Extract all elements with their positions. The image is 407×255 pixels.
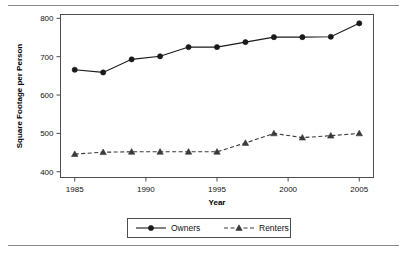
y-tick-label: 800 <box>40 14 54 23</box>
y-axis-title: Square Footage per Person <box>15 44 24 149</box>
y-tick-label: 400 <box>40 168 54 177</box>
x-tick-label: 2005 <box>350 185 368 194</box>
data-point-owners <box>328 34 333 39</box>
y-tick-label: 600 <box>40 91 54 100</box>
legend-label-renters: Renters <box>259 223 289 233</box>
x-axis-ticks: 19851990199520002005 <box>66 178 369 194</box>
data-point-owners <box>214 45 219 50</box>
x-tick-label: 1995 <box>208 185 226 194</box>
data-point-owners <box>101 70 106 75</box>
data-point-owners <box>357 21 362 26</box>
x-tick-label: 1990 <box>137 185 155 194</box>
chart-figure: 400500600700800 19851990199520002005 Squ… <box>0 0 407 255</box>
legend-label-owners: Owners <box>171 223 200 233</box>
data-point-owners <box>157 54 162 59</box>
data-point-owners <box>271 35 276 40</box>
data-point-owners <box>243 40 248 45</box>
y-tick-label: 700 <box>40 53 54 62</box>
data-point-owners <box>129 57 134 62</box>
data-point-owners <box>186 45 191 50</box>
data-point-owners <box>300 35 305 40</box>
line-chart: 400500600700800 19851990199520002005 Squ… <box>0 0 407 255</box>
legend-marker-owners <box>148 225 153 230</box>
x-axis-title: Year <box>209 198 226 207</box>
x-tick-label: 2000 <box>279 185 297 194</box>
data-point-owners <box>72 67 77 72</box>
y-tick-label: 500 <box>40 129 54 138</box>
x-tick-label: 1985 <box>66 185 84 194</box>
y-axis-ticks: 400500600700800 <box>40 14 60 176</box>
